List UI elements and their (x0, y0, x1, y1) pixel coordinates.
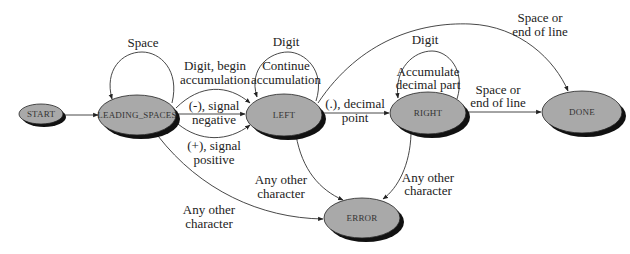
label-left-digit: Digit (273, 34, 300, 49)
node-leading-spaces: LEADING_SPACES (97, 95, 180, 139)
label-decimal-2: point (342, 110, 369, 125)
state-diagram: START LEADING_SPACES LEFT RIGHT DONE ERR… (0, 0, 630, 254)
label-right-done-2: end of line (470, 95, 526, 110)
label-digit-begin-1: Digit, begin (184, 58, 247, 73)
node-error: ERROR (324, 198, 404, 242)
label-right-digit: Digit (412, 32, 439, 47)
node-right-label: RIGHT (414, 108, 443, 118)
label-positive-1: (+), signal (187, 138, 241, 153)
label-positive-2: positive (193, 152, 234, 167)
label-negative-1: (-), signal (189, 98, 240, 113)
label-accumulate-2: decimal part (396, 77, 461, 92)
label-decimal-1: (.), decimal (325, 96, 385, 111)
node-done: DONE (542, 91, 626, 137)
node-error-label: ERROR (346, 213, 377, 223)
label-space-loop: Space (127, 35, 158, 50)
node-done-label: DONE (569, 107, 595, 117)
label-ls-any-other-1: Any other (183, 202, 236, 217)
label-ls-any-other-2: character (185, 216, 233, 231)
label-left-done-2: end of line (512, 24, 568, 39)
node-start-label: START (27, 109, 56, 119)
node-leading-spaces-label: LEADING_SPACES (97, 110, 176, 120)
label-continue-2: accumulation (251, 72, 322, 87)
label-left-any-other-1: Any other (255, 172, 308, 187)
label-left-done-1: Space or (517, 10, 563, 25)
label-digit-begin-2: accumulation (180, 72, 251, 87)
label-negative-2: negative (192, 112, 236, 127)
node-start: START (19, 104, 66, 127)
label-left-any-other-2: character (257, 186, 305, 201)
label-right-any-other-2: character (404, 183, 452, 198)
node-left: LEFT (246, 94, 326, 140)
node-left-label: LEFT (273, 110, 296, 120)
label-continue-1: Continue (262, 58, 310, 73)
node-right: RIGHT (390, 92, 470, 138)
